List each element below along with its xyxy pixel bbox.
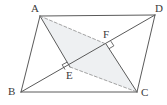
vertex-label-b: B xyxy=(8,86,15,97)
vertex-label-d: D xyxy=(155,3,163,14)
side-cd xyxy=(137,15,155,92)
vertex-label-f: F xyxy=(103,29,109,40)
vertex-label-e: E xyxy=(66,70,73,81)
diagonal-bd xyxy=(21,15,155,92)
side-da xyxy=(40,15,155,16)
side-ab xyxy=(21,16,40,92)
shaded-region-aecf xyxy=(40,16,137,92)
vertex-label-c: C xyxy=(141,87,148,98)
vertex-label-a: A xyxy=(31,3,39,14)
geometry-figure: A B C D E F xyxy=(0,0,167,105)
right-angle-at-f xyxy=(109,41,114,49)
